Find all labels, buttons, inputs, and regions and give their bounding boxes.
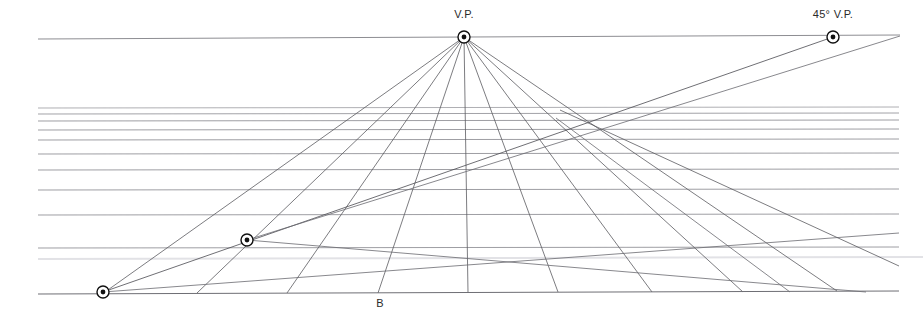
vanishing-point-dot: [462, 35, 467, 40]
diagonal-vanishing-point-label: 45° V.P.: [813, 8, 853, 20]
vanishing-point-label: V.P.: [454, 8, 474, 20]
perspective-diagram-canvas: V.P.45° V.P.B: [0, 0, 923, 331]
baseline-origin-point-dot: [101, 290, 106, 295]
measuring-point-left-dot: [245, 238, 250, 243]
base-point-b-label: B: [376, 297, 384, 309]
perspective-grid-svg: V.P.45° V.P.B: [0, 0, 923, 331]
canvas-background: [0, 0, 923, 331]
diagonal-vanishing-point-dot: [831, 35, 836, 40]
